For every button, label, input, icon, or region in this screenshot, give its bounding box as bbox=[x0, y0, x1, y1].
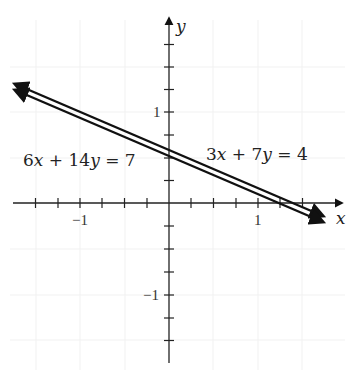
tick-label-x-neg1: −1 bbox=[72, 212, 88, 228]
tick-label-y-neg1: −1 bbox=[143, 287, 159, 303]
x-axis-label: x bbox=[336, 208, 346, 228]
tick-label-y-1: 1 bbox=[153, 104, 161, 120]
tick-label-x-1: 1 bbox=[254, 212, 262, 228]
background-grid bbox=[10, 20, 345, 370]
equation-label-3x-7y-4: 3x + 7y = 4 bbox=[206, 144, 308, 164]
y-axis-label: y bbox=[175, 16, 186, 36]
graph: y x −1 1 1 −1 6x + 14y = 7 3x + 7y = 4 bbox=[0, 0, 355, 383]
equation-label-6x-14y-7: 6x + 14y = 7 bbox=[23, 150, 136, 170]
